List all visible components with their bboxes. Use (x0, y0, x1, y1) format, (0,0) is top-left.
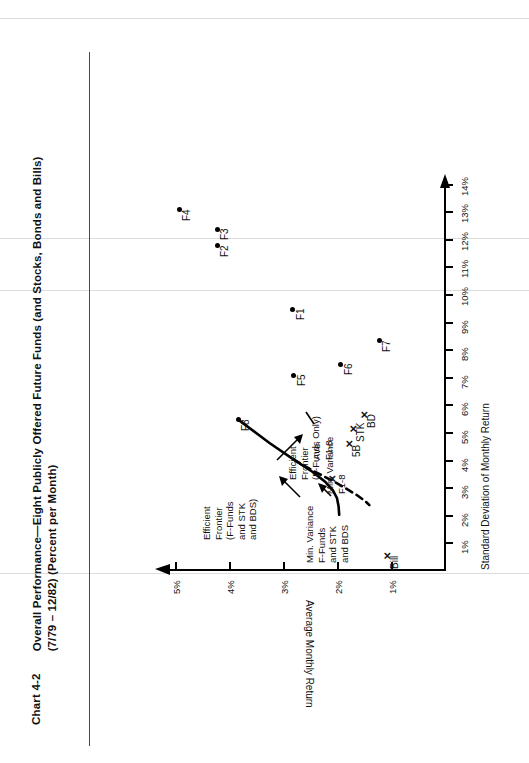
data-point-label-stk: STK (355, 422, 366, 441)
x-tick-label: 5% (459, 430, 470, 444)
x-tick-label: 10% (459, 287, 470, 306)
y-tick (337, 562, 339, 570)
chart-title-line-1: Overall Performance—Eight Publicly Offer… (30, 157, 45, 652)
x-tick (445, 515, 453, 517)
x-tick (445, 487, 453, 489)
data-point-label-bd: BD (366, 414, 377, 428)
x-tick (445, 404, 453, 406)
y-tick (283, 562, 285, 570)
annotation-ave-f18: Ave. F1-8 (311, 440, 334, 460)
y-tick-label: 1% (387, 580, 398, 594)
x-tick-label: 2% (459, 513, 470, 527)
y-axis-title: Average Monthly Return (304, 600, 315, 708)
x-tick (445, 184, 453, 186)
scanned-page: Chart 4-2 Overall Performance—Eight Publ… (0, 0, 529, 763)
x-tick-label: 7% (459, 375, 470, 389)
y-tick-label: 5% (171, 580, 182, 594)
data-point-label-f3: F3 (219, 228, 230, 240)
x-tick-label: 1% (459, 541, 470, 555)
annotation-min-variance-all: Min. Variance F-Funds and STK and BDS (304, 506, 350, 563)
x-tick-label: 12% (459, 232, 470, 251)
x-tick-label: 9% (459, 320, 470, 334)
y-tick-label: 2% (333, 580, 344, 594)
x-tick (445, 239, 453, 241)
y-tick (175, 562, 177, 570)
x-tick (445, 211, 453, 213)
x-tick (445, 294, 453, 296)
data-point-label-f4: F4 (181, 209, 192, 221)
annotation-efficient-frontier-all: Efficient Frontier (F-Funds and STK and … (201, 499, 259, 540)
y-tick (229, 562, 231, 570)
x-axis-title: Standard Deviation of Monthly Return (480, 403, 491, 570)
x-tick-label: 11% (459, 260, 470, 278)
y-axis-line (166, 569, 446, 571)
data-point-label-f8: F8 (240, 419, 251, 431)
data-point-label-5b: 5B (351, 445, 362, 457)
x-tick-label: 6% (459, 403, 470, 417)
x-tick-label: 4% (459, 458, 470, 472)
y-tick-label: 3% (279, 580, 290, 594)
chart-title-block: Chart 4-2 Overall Performance—Eight Publ… (30, 25, 90, 725)
x-tick-label: 3% (459, 485, 470, 499)
data-point-label-bill: Bill (389, 555, 400, 568)
x-tick (445, 377, 453, 379)
x-tick (445, 542, 453, 544)
x-tick (445, 432, 453, 434)
chart-title-line-2: (7/79 – 12/82) (Percent per Month) (45, 157, 60, 652)
x-tick (445, 322, 453, 324)
x-tick (445, 349, 453, 351)
data-point-label-f5: F5 (296, 375, 307, 387)
x-tick (445, 460, 453, 462)
data-point-label-f7: F7 (381, 340, 392, 352)
x-tick-label: 13% (459, 204, 470, 223)
data-point-label-f1: F1 (295, 309, 306, 321)
data-point-label-f6: F6 (343, 364, 354, 376)
y-tick-label: 4% (225, 580, 236, 594)
x-tick (445, 266, 453, 268)
x-tick-label: 14% (459, 177, 470, 196)
data-point-label-f2: F2 (219, 245, 230, 257)
chart-number: Chart 4-2 (30, 673, 42, 725)
x-tick-label: 8% (459, 347, 470, 361)
